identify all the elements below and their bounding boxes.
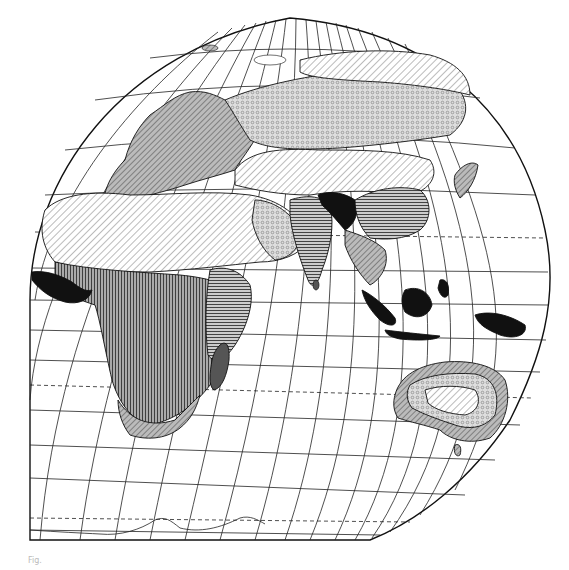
- island-svalbard: [202, 45, 218, 51]
- region-japan: [454, 163, 478, 198]
- figure-caption: Fig.: [28, 556, 42, 565]
- island-novaya-zemlya: [254, 55, 286, 65]
- region-china: [355, 188, 429, 239]
- region-indonesia: [362, 280, 525, 340]
- region-india: [290, 197, 332, 285]
- region-east-africa: [206, 268, 251, 360]
- region-australia: [394, 362, 508, 456]
- world-map: [0, 0, 569, 570]
- island-sri-lanka: [313, 280, 319, 290]
